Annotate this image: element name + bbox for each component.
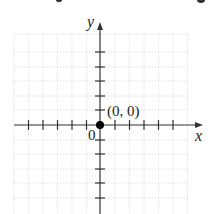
- y-axis-label: y: [85, 13, 95, 31]
- origin-label: 0: [88, 127, 96, 143]
- y-axis-arrow-icon: [97, 22, 103, 30]
- cropped-text-fragments: [56, 0, 205, 3]
- origin-point: [96, 121, 104, 129]
- x-axis-label: x: [194, 127, 202, 144]
- axes: [14, 28, 198, 214]
- coordinate-plane: y x 0 (0, 0): [0, 0, 220, 214]
- point-label: (0, 0): [107, 103, 140, 120]
